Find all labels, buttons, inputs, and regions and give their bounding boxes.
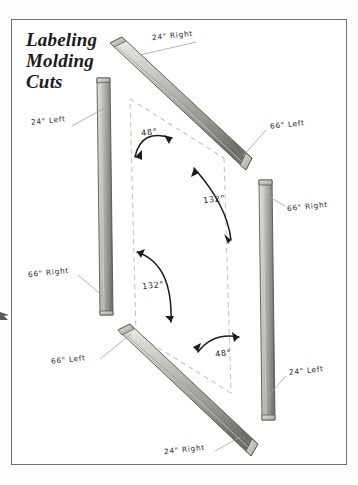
arrowhead-bl-b <box>165 316 174 322</box>
page-title-line-3: Cuts <box>26 71 97 92</box>
page-title-line-1: Labeling <box>26 29 97 50</box>
angle-arrows <box>135 135 239 352</box>
leader-bottom-piece-right-end <box>215 437 240 451</box>
page-edge-artifact <box>0 310 11 322</box>
molding-piece-right <box>259 180 275 420</box>
arrowhead-br-b <box>232 332 239 342</box>
page-title: Labeling Molding Cuts <box>26 29 97 92</box>
label-angle-bottom-right: 48° <box>214 347 231 359</box>
page-title-line-2: Molding <box>26 50 97 71</box>
angle-arrowheads <box>135 135 239 352</box>
arrowhead-bl-a <box>137 249 145 258</box>
guide-edge-left <box>130 99 136 334</box>
leader-top-piece-right-end <box>243 130 266 156</box>
page-canvas: Labeling Molding Cuts 24" Right 24" Left… <box>0 0 358 485</box>
leader-bottom-piece-left-end <box>100 334 131 359</box>
molding-piece-left <box>97 78 113 315</box>
molding-piece-bottom <box>118 324 258 456</box>
leader-top-piece-left-end <box>140 42 196 55</box>
arrowhead-tr-a <box>191 168 199 177</box>
label-angle-top-left: 48° <box>140 126 157 138</box>
